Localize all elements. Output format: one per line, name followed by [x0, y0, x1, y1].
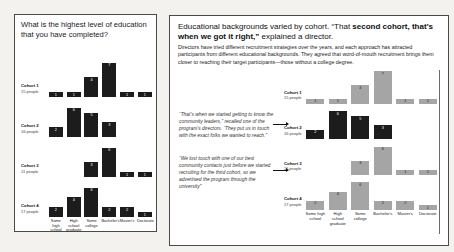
annotated-panel: Educational backgrounds varied by cohort… [169, 15, 449, 246]
bar: 2 [49, 127, 63, 137]
bar: 2 [374, 201, 392, 210]
x-axis-label: Doctorate [136, 219, 154, 233]
cohort-label: Cohort 115 people [282, 90, 304, 104]
bar: 3 [351, 161, 369, 175]
bar-slot: 2 [304, 104, 327, 140]
right-panel-title: Educational backgrounds varied by cohort… [178, 22, 442, 43]
bar-slot: 4 [83, 57, 101, 97]
bar-slot: 1 [394, 139, 417, 175]
bar: 6 [329, 111, 347, 139]
cohort-label: Cohort 216 people [19, 123, 47, 137]
bar-value: 4 [73, 198, 75, 202]
bar: 5 [351, 116, 369, 139]
x-axis-label: Some college [83, 219, 101, 233]
bar-slot: 3 [372, 104, 395, 140]
bar-value: 2 [314, 130, 316, 134]
cohort-row: Cohort 216 people2653 [282, 104, 439, 140]
bar-value: 2 [55, 128, 57, 132]
bar-value: 2 [55, 208, 57, 212]
bar-value: 6 [337, 112, 339, 116]
bar: 2 [396, 201, 414, 210]
bar: 6 [67, 108, 81, 137]
bar-value: 4 [359, 86, 361, 90]
bar-slot: 4 [65, 177, 83, 217]
bar-slot [394, 104, 417, 140]
bar-slot: 2 [372, 175, 395, 211]
education-chart-plain: Cohort 115 people114711Cohort 216 people… [19, 57, 154, 233]
bar-value: 7 [382, 72, 384, 76]
bar: 2 [120, 207, 134, 217]
bar-slot: 6 [65, 97, 83, 137]
bar: 3 [102, 122, 116, 137]
bar-slot: 6 [327, 104, 350, 140]
cohort-name: Cohort 4 [284, 196, 304, 202]
bar-value: 1 [427, 206, 429, 210]
title-text: Educational backgrounds varied by cohort… [178, 22, 352, 31]
cohort-size: 11 people [21, 169, 47, 174]
bar-slot: 5 [349, 104, 372, 140]
bar-value: 2 [404, 201, 406, 205]
bar: 2 [102, 207, 116, 217]
bar: 3 [84, 162, 98, 177]
cohort-row: Cohort 417 people246221 [19, 177, 154, 217]
x-axis-label: Some high school [47, 219, 65, 233]
bar-slot [304, 139, 327, 175]
bar-slot: 4 [327, 175, 350, 211]
x-axis-spacer [19, 219, 47, 233]
cohort-label: Cohort 115 people [19, 83, 47, 97]
bar-value: 4 [337, 192, 339, 196]
cohort-row: Cohort 115 people114711 [19, 57, 154, 97]
bar-slot: 1 [417, 68, 440, 104]
bar: 6 [102, 148, 116, 177]
bar: 5 [84, 113, 98, 138]
cohort-size: 16 people [21, 129, 47, 134]
cohort-row: Cohort 311 people3611 [19, 137, 154, 177]
cohort-label: Cohort 417 people [19, 203, 47, 217]
bar-value: 5 [359, 117, 361, 121]
left-panel-title: What is the highest level of education t… [21, 20, 152, 40]
bar-slot [65, 137, 83, 177]
bar-value: 6 [73, 108, 75, 112]
cohort-label: Cohort 417 people [282, 196, 304, 210]
bar: 1 [419, 205, 437, 210]
bar: 2 [306, 201, 324, 210]
bar: 4 [329, 192, 347, 210]
bar: 4 [84, 77, 98, 97]
bar-slot: 7 [372, 68, 395, 104]
x-axis-label: High school graduate [327, 212, 350, 227]
cohort-name: Cohort 2 [284, 125, 304, 131]
bar-value: 6 [382, 147, 384, 151]
bar-slot: 6 [349, 175, 372, 211]
bar-slot: 1 [417, 175, 440, 211]
bar-slot: 1 [118, 137, 136, 177]
bar-value: 6 [108, 148, 110, 152]
x-axis-label: Master's [394, 212, 417, 227]
x-axis-label: Bachelor's [372, 212, 395, 227]
cohort-label: Cohort 311 people [19, 163, 47, 177]
bar-slot: 5 [83, 97, 101, 137]
bar: 3 [374, 125, 392, 139]
bar-slot: 2 [100, 177, 118, 217]
x-axis-label: Some college [349, 212, 372, 227]
bar-slot: 1 [136, 177, 154, 217]
bar-slot: 2 [47, 97, 65, 137]
title-text-end: explained a director. [259, 32, 333, 41]
bar-value: 2 [126, 208, 128, 212]
x-axis-label: Bachelor's [100, 219, 118, 233]
bar-slot: 2 [118, 177, 136, 217]
education-chart-annotated: Cohort 115 people114711Cohort 216 people… [282, 68, 439, 227]
bar-slot: 1 [65, 57, 83, 97]
bar-slot: 2 [47, 177, 65, 217]
bar-value: 1 [144, 213, 146, 217]
bar-value: 2 [382, 201, 384, 205]
bar-slot: 1 [327, 68, 350, 104]
cohort-size: 15 people [21, 89, 47, 94]
bar-slot: 3 [83, 137, 101, 177]
cohort-row: Cohort 216 people2653 [19, 97, 154, 137]
bar: 4 [351, 85, 369, 103]
bar-slot: 6 [372, 139, 395, 175]
x-axis-label: High school graduate [65, 219, 83, 233]
bar-slot: 6 [100, 137, 118, 177]
bar-value: 7 [108, 63, 110, 67]
plot-area-edge-line [439, 70, 440, 234]
